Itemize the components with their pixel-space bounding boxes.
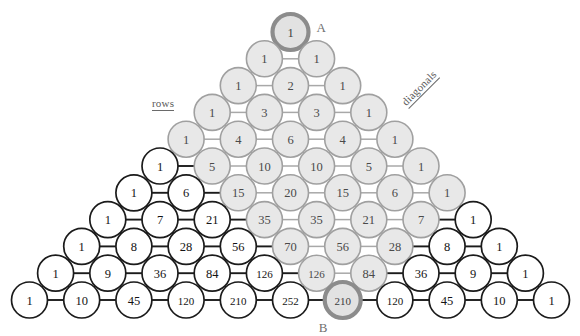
pascal-cell-value: 1 [444,186,450,200]
pascal-cell-value: 6 [287,133,293,147]
pascal-cell: 1 [325,68,361,104]
pascal-cell: 70 [273,228,309,264]
pascal-cell-value: 1 [392,133,398,147]
pascal-cell-value: 15 [232,186,245,200]
pascal-cell-value: 6 [392,186,398,200]
pascal-cell-value: 56 [336,240,349,254]
pascal-cell: 1 [351,94,387,130]
pascal-cell: 210 [220,282,256,318]
pascal-cell-value: 1 [105,213,111,227]
pascal-cell-value: 1 [366,106,372,120]
rows-axis-label: rows [152,97,174,111]
pascal-cell-value: 56 [232,240,245,254]
pascal-cell-value: 84 [206,267,219,281]
pascal-cell: 1 [90,202,126,238]
pascal-cell: 120 [377,282,413,318]
pascal-cell: 1 [38,255,74,291]
pascal-cell: 1 [194,94,230,130]
pascal-cell-value: 1 [209,106,215,120]
pascal-cell-value: 9 [105,267,111,281]
pascal-cell: 8 [116,228,152,264]
pascal-cell-value: 1 [287,26,293,40]
pascal-cell-value: 1 [340,79,346,93]
pascal-cell: 35 [299,202,335,238]
pascal-cell: 1 [534,282,570,318]
pascal-cell-value: 28 [389,240,402,254]
pascal-cell: 4 [220,121,256,157]
pascal-cell-value: 5 [209,160,215,174]
pascal-cell-value: 120 [178,295,195,307]
pascal-cell-value: 126 [308,268,325,280]
pascal-cell: 15 [325,175,361,211]
pascal-cell: 20 [273,175,309,211]
pascal-cell: 8 [429,228,465,264]
pascal-cell-value: 7 [157,213,163,227]
pascal-cell-value: 36 [154,267,167,281]
pascal-cell-value: 1 [261,52,267,66]
pascal-cell-value: 3 [261,106,267,120]
point-b-label: B [319,320,328,336]
pascal-cell-value: 84 [363,267,376,281]
pascal-cell: 45 [116,282,152,318]
pascal-cell-value: 4 [235,133,242,147]
pascal-cell-value: 35 [310,213,323,227]
pascal-cell: 21 [351,202,387,238]
pascal-cell-value: 1 [79,240,85,254]
pascal-cell: 1 [220,68,256,104]
pascal-cell-value: 10 [310,160,323,174]
pascal-cell-value: 3 [313,106,319,120]
pascal-cell-value: 28 [180,240,193,254]
pascal-cell: 45 [429,282,465,318]
pascal-cell-value: 20 [284,186,297,200]
pascal-cell-value: 15 [336,186,349,200]
pascal-cell: 36 [142,255,178,291]
pascal-cell: 210 [325,282,361,318]
pascal-cell: 1 [116,175,152,211]
pascal-cell: 9 [455,255,491,291]
pascal-cell-value: 210 [230,295,247,307]
pascal-cell: 3 [299,94,335,130]
pascal-cell-value: 45 [128,294,141,308]
pascal-cell-value: 9 [470,267,476,281]
pascal-cell: 5 [351,148,387,184]
pascal-cell: 6 [273,121,309,157]
pascal-cell: 28 [377,228,413,264]
pascal-cell-value: 1 [313,52,319,66]
pascal-cell-value: 10 [75,294,88,308]
pascal-cell-value: 1 [26,294,32,308]
pascal-cell: 4 [325,121,361,157]
pascal-cell: 120 [168,282,204,318]
pascal-cell: 1 [246,41,282,77]
pascal-cell-value: 70 [284,240,297,254]
point-a-label: A [317,20,326,36]
pascal-cell-value: 1 [183,133,189,147]
pascal-cell: 126 [246,255,282,291]
pascal-cell-value: 8 [444,240,450,254]
pascal-cell: 1 [377,121,413,157]
pascal-cell: 1 [142,148,178,184]
pascal-cell: 6 [168,175,204,211]
pascal-cell: 5 [194,148,230,184]
pascal-cell-value: 8 [131,240,137,254]
pascal-cell: 1 [481,228,517,264]
pascal-cell-value: 1 [496,240,502,254]
pascal-cell-value: 1 [418,160,424,174]
pascal-cell-value: 10 [258,160,271,174]
pascal-cell: 2 [273,68,309,104]
pascal-cell-value: 6 [183,186,189,200]
pascal-cell-value: 1 [548,294,554,308]
pascal-cell: 3 [246,94,282,130]
pascal-cell-value: 4 [340,133,347,147]
pascal-cell-value: 120 [387,295,404,307]
pascal-cell: 1 [299,41,335,77]
pascal-cell-value: 1 [522,267,528,281]
pascal-cell-value: 1 [470,213,476,227]
pascal-cell: 10 [64,282,100,318]
pascal-cell: 1 [429,175,465,211]
pascal-cell: 10 [299,148,335,184]
pascal-cell: 35 [246,202,282,238]
pascal-cell-value: 21 [206,213,219,227]
pascal-cell-value: 10 [493,294,506,308]
pascal-cell-value: 2 [287,79,293,93]
